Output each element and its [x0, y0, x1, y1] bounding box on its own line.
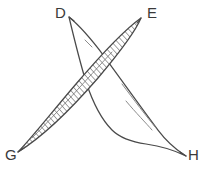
geometry-figure: [0, 0, 207, 169]
vertex-pointers: [18, 17, 186, 156]
vertex-label-g: G: [5, 147, 17, 162]
figure-canvas: D E G H: [0, 0, 207, 169]
leaf-DH-vein-lower: [126, 101, 152, 130]
vertex-label-h: H: [188, 147, 199, 162]
leaf-DH-vein-upper: [122, 84, 156, 128]
leaf-DH-tick-near-d: [85, 40, 92, 47]
vertex-label-e: E: [147, 5, 157, 20]
hatched-leaf-GE: [0, 0, 207, 169]
vertex-label-d: D: [55, 5, 66, 20]
